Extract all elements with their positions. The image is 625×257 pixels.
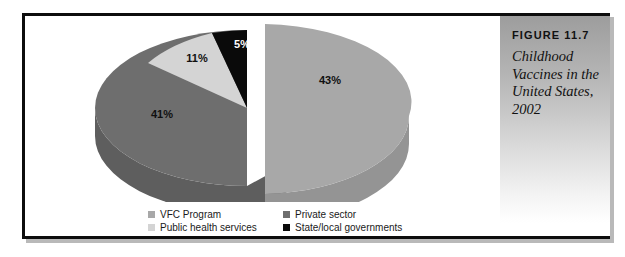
legend-swatch-state-local-governments [283, 224, 290, 231]
chart-legend: VFC Program Private sector Public health… [148, 208, 448, 233]
legend-item-public-health-services[interactable]: Public health services [148, 221, 273, 233]
legend-label-private-sector: Private sector [295, 209, 356, 220]
chart-area: 43% 41% 11% 5% VFC Program Private secto… [25, 16, 503, 236]
figure-caption-line-2: Vaccines in the [512, 66, 608, 84]
pie-label-public-health-services: 11% [186, 52, 208, 64]
figure-number-label: FIGURE 11.7 [512, 29, 608, 41]
figure-caption-line-1: Childhood [512, 48, 608, 66]
pie-chart-svg: 43% 41% 11% 5% [87, 22, 417, 202]
legend-swatch-public-health-services [148, 224, 155, 231]
pie-label-private-sector: 41% [151, 108, 173, 120]
legend-swatch-private-sector [283, 211, 290, 218]
legend-swatch-vfc-program [148, 211, 155, 218]
figure-caption-text: Childhood Vaccines in the United States,… [512, 48, 608, 118]
figure-caption-line-4: 2002 [512, 101, 608, 119]
figure-caption-inner: FIGURE 11.7 Childhood Vaccines in the Un… [512, 29, 608, 118]
figure-frame-border: 43% 41% 11% 5% VFC Program Private secto… [22, 13, 610, 239]
legend-item-vfc-program[interactable]: VFC Program [148, 208, 273, 220]
legend-item-state-local-governments[interactable]: State/local governments [283, 221, 448, 233]
legend-label-public-health-services: Public health services [160, 222, 257, 233]
legend-label-vfc-program: VFC Program [160, 209, 221, 220]
legend-label-state-local-governments: State/local governments [295, 222, 402, 233]
legend-item-private-sector[interactable]: Private sector [283, 208, 448, 220]
pie-label-state-local-governments: 5% [234, 38, 250, 50]
figure-caption-panel: FIGURE 11.7 Childhood Vaccines in the Un… [500, 16, 610, 236]
pie-label-vfc-program: 43% [319, 74, 341, 86]
figure-container: 43% 41% 11% 5% VFC Program Private secto… [0, 0, 625, 257]
pie-chart: 43% 41% 11% 5% [87, 22, 417, 202]
figure-caption-line-3: United States, [512, 83, 608, 101]
